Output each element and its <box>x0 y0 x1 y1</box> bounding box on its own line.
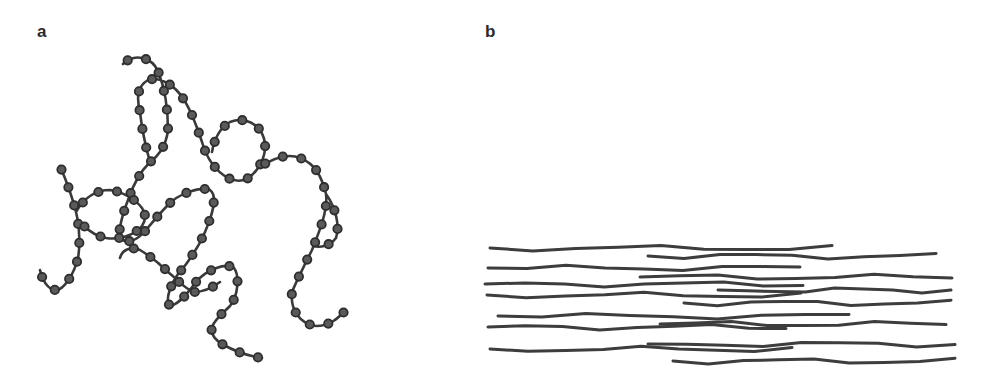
monomer-bead <box>311 238 319 246</box>
monomer-bead <box>205 217 213 225</box>
monomer-bead <box>73 258 81 266</box>
monomer-bead <box>116 225 124 233</box>
monomer-bead <box>288 290 296 298</box>
monomer-bead <box>135 172 143 180</box>
monomer-bead <box>218 340 226 348</box>
coil-beads <box>38 55 348 362</box>
monomer-bead <box>175 278 183 286</box>
monomer-bead <box>191 288 199 296</box>
monomer-bead <box>324 319 332 327</box>
monomer-bead <box>38 273 46 281</box>
monomer-bead <box>330 206 338 214</box>
monomer-bead <box>165 300 173 308</box>
aligned-chain <box>485 282 803 287</box>
monomer-bead <box>167 282 175 290</box>
monomer-bead <box>147 157 155 165</box>
monomer-bead <box>320 183 328 191</box>
monomer-bead <box>306 320 314 328</box>
monomer-bead <box>207 326 215 334</box>
aligned-chain <box>488 265 800 270</box>
aligned-chain <box>487 292 801 298</box>
monomer-bead <box>322 202 330 210</box>
monomer-bead <box>201 147 209 155</box>
aligned-chain <box>490 246 832 251</box>
aligned-chain <box>648 253 936 259</box>
monomer-bead <box>154 69 162 77</box>
monomer-bead <box>135 106 143 114</box>
monomer-bead <box>135 87 143 95</box>
monomer-bead <box>261 159 269 167</box>
aligned-chain <box>718 288 951 293</box>
monomer-bead <box>153 213 161 221</box>
monomer-bead <box>261 142 269 150</box>
monomer-bead <box>180 292 188 300</box>
monomer-bead <box>179 94 187 102</box>
monomer-bead <box>166 199 174 207</box>
aligned-chain <box>648 342 955 347</box>
aligned-chain <box>673 358 955 364</box>
monomer-bead <box>159 143 167 151</box>
monomer-bead <box>225 262 233 270</box>
monomer-bead <box>65 275 73 283</box>
monomer-bead <box>207 266 215 274</box>
monomer-bead <box>70 201 78 209</box>
monomer-bead <box>201 185 209 193</box>
monomer-bead <box>113 187 121 195</box>
monomer-bead <box>138 125 146 133</box>
monomer-bead <box>161 265 169 273</box>
monomer-bead <box>57 165 65 173</box>
monomer-bead <box>236 348 244 356</box>
monomer-bead <box>130 244 138 252</box>
aligned-chain <box>684 300 951 306</box>
monomer-bead <box>221 122 229 130</box>
aligned-chain <box>640 274 952 279</box>
monomer-bead <box>130 196 138 204</box>
monomer-bead <box>230 296 238 304</box>
monomer-bead <box>238 116 246 124</box>
monomer-bead <box>141 211 149 219</box>
monomer-bead <box>141 227 149 235</box>
monomer-bead <box>339 308 347 316</box>
monomer-bead <box>188 251 196 259</box>
monomer-bead <box>198 234 206 242</box>
monomer-bead <box>333 225 341 233</box>
monomer-bead <box>133 227 141 235</box>
monomer-bead <box>124 56 132 64</box>
monomer-bead <box>292 308 300 316</box>
monomer-bead <box>96 232 104 240</box>
monomer-bead <box>295 272 303 280</box>
monomer-bead <box>64 183 72 191</box>
monomer-bead <box>166 81 174 89</box>
monomer-bead <box>211 138 219 146</box>
monomer-bead <box>195 129 203 137</box>
monomer-bead <box>94 188 102 196</box>
monomer-bead <box>79 198 87 206</box>
monomer-bead <box>182 189 190 197</box>
monomer-bead <box>233 277 241 285</box>
monomer-bead <box>217 310 225 318</box>
monomer-bead <box>209 283 217 291</box>
aligned-chain <box>488 325 786 330</box>
aligned-chain <box>498 313 849 319</box>
panel-a-random-coil <box>38 55 348 362</box>
monomer-bead <box>115 234 123 242</box>
monomer-bead <box>146 253 154 261</box>
monomer-bead <box>80 222 88 230</box>
panel-b-aligned-chains <box>485 246 955 365</box>
monomer-bead <box>254 353 262 361</box>
monomer-bead <box>225 175 233 183</box>
monomer-bead <box>210 198 218 206</box>
monomer-bead <box>75 239 83 247</box>
monomer-bead <box>211 163 219 171</box>
monomer-bead <box>177 266 185 274</box>
figure-canvas <box>0 0 983 382</box>
monomer-bead <box>51 286 59 294</box>
monomer-bead <box>279 152 287 160</box>
monomer-bead <box>297 154 305 162</box>
monomer-bead <box>188 111 196 119</box>
monomer-bead <box>192 278 200 286</box>
monomer-bead <box>142 55 150 63</box>
monomer-bead <box>142 143 150 151</box>
monomer-bead <box>148 75 156 83</box>
monomer-bead <box>244 174 252 182</box>
